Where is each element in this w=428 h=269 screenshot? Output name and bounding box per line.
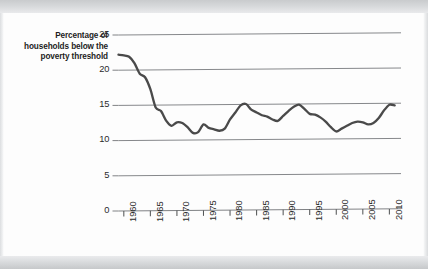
gridline-25 — [119, 33, 402, 35]
y-tick-marks-group — [113, 35, 119, 211]
data-series-group — [119, 55, 395, 134]
gridline-15 — [119, 103, 402, 105]
x-tick-label-1960: 1960 — [128, 201, 138, 222]
x-tick-label-1985: 1985 — [261, 200, 271, 221]
gridline-20 — [119, 68, 402, 70]
y-tick-label-20: 20 — [88, 64, 110, 74]
gridline-5 — [119, 174, 402, 176]
x-tick-label-1980: 1980 — [234, 200, 244, 221]
x-tick-label-1965: 1965 — [155, 201, 165, 222]
scanned-page: Percentage of households below the pover… — [0, 0, 428, 269]
y-tick-label-0: 0 — [88, 205, 110, 215]
x-tick-label-1995: 1995 — [314, 200, 324, 221]
x-tick-label-1990: 1990 — [287, 200, 297, 221]
y-tick-label-15: 15 — [88, 99, 110, 109]
x-tick-label-2000: 2000 — [340, 200, 350, 221]
x-tick-label-2005: 2005 — [367, 199, 377, 220]
y-tick-label-5: 5 — [88, 170, 110, 180]
y-tick-label-25: 25 — [88, 29, 110, 39]
x-tick-label-2010: 2010 — [394, 199, 404, 220]
gridline-10 — [119, 138, 402, 140]
x-tick-label-1975: 1975 — [208, 201, 218, 222]
y-tick-label-10: 10 — [88, 134, 110, 144]
poverty-rate-line — [119, 55, 395, 134]
x-tick-label-1970: 1970 — [181, 201, 191, 222]
poverty-threshold-line-chart — [0, 0, 428, 269]
